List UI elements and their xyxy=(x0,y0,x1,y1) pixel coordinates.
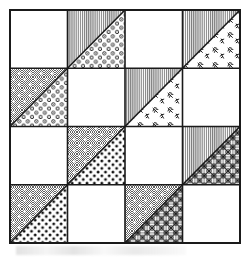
quilt-cell-r0-c1 xyxy=(68,10,126,68)
quilt-cell-r1-c2 xyxy=(125,68,183,126)
quilt-cell-r1-c3 xyxy=(183,68,241,126)
quilt-cell-r0-c2 xyxy=(125,10,183,68)
quilt-cell-r2-c1 xyxy=(68,127,126,185)
quilt-cell-r3-c1 xyxy=(68,185,126,243)
quilt-cell-r0-c3 xyxy=(183,10,241,68)
quilt-cell-r3-c3 xyxy=(183,185,241,243)
patch-plain xyxy=(183,68,241,126)
quilt-cell-r1-c1 xyxy=(68,68,126,126)
patch-plain xyxy=(10,127,68,185)
quilt-cell-r1-c0 xyxy=(10,68,68,126)
quilt-cell-r2-c3 xyxy=(183,127,241,185)
patch-plain xyxy=(125,127,183,185)
quilt-block-figure xyxy=(0,0,250,259)
quilt-cell-r3-c2 xyxy=(125,185,183,243)
quilt-cell-r3-c0 xyxy=(10,185,68,243)
patch-plain xyxy=(183,185,241,243)
patch-plain xyxy=(10,10,68,68)
quilt-cell-r2-c0 xyxy=(10,127,68,185)
patch-plain xyxy=(125,10,183,68)
patch-plain xyxy=(68,185,126,243)
quilt-block-canvas xyxy=(0,0,250,259)
quilt-cell-r0-c0 xyxy=(10,10,68,68)
quilt-cell-r2-c2 xyxy=(125,127,183,185)
patch-plain xyxy=(68,68,126,126)
